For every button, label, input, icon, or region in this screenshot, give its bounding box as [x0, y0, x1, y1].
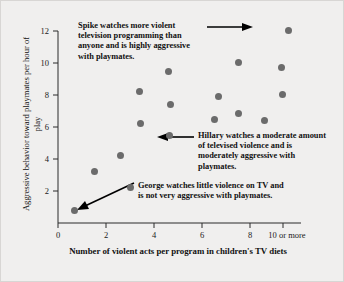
- data-point: [261, 117, 268, 124]
- x-tick-label: 10 or more: [259, 230, 315, 240]
- x-tick-label: 0: [48, 230, 68, 240]
- annotation-arrow-spike: [207, 23, 253, 31]
- scatter-plot: 12 10 8 6 4 2 0 2 4 6 8 10 or more Aggre…: [1, 1, 344, 282]
- data-point: [279, 91, 286, 98]
- data-point: [278, 64, 285, 71]
- data-point: [235, 110, 242, 117]
- annotation-hillary: Hillary watches a moderate amount of tel…: [198, 131, 330, 172]
- data-point: [117, 152, 124, 159]
- y-axis-label: Aggressive behavior toward playmates per…: [21, 29, 43, 219]
- x-tick-label: 8: [240, 230, 260, 240]
- x-tick-label: 4: [144, 230, 164, 240]
- data-point-george: [71, 207, 78, 214]
- data-point-spike: [285, 27, 292, 34]
- figure-panel: 12 10 8 6 4 2 0 2 4 6 8 10 or more Aggre…: [0, 0, 344, 282]
- annotation-george: George watches little violence on TV and…: [138, 181, 288, 201]
- x-tick-label: 2: [96, 230, 116, 240]
- data-point-hillary: [166, 132, 173, 139]
- y-axis-ticks: [53, 31, 58, 191]
- annotation-spike: Spike watches more violent television pr…: [78, 21, 203, 62]
- x-tick-label: 6: [192, 230, 212, 240]
- data-point: [91, 168, 98, 175]
- data-point: [211, 116, 218, 123]
- x-axis-label: Number of violent acts per program in ch…: [58, 246, 298, 257]
- x-axis-ticks: [58, 223, 283, 228]
- data-point: [127, 184, 134, 191]
- annotation-arrow-hillary: [157, 133, 194, 141]
- data-point: [235, 59, 242, 66]
- annotation-arrow-george: [77, 183, 134, 210]
